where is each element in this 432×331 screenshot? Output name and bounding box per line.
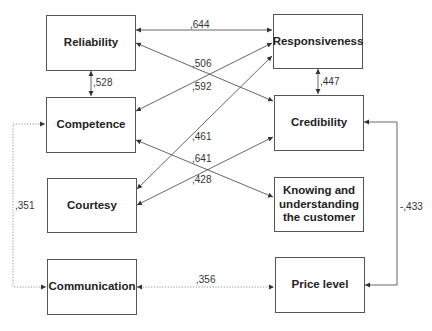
node-label: Communication xyxy=(49,280,136,294)
edge-label-528: ,528 xyxy=(93,77,112,88)
node-communication: Communication xyxy=(47,259,137,315)
edge-label-461: ,461 xyxy=(192,131,211,142)
edge-reliability-credibility xyxy=(136,43,273,101)
node-responsiveness: Responsiveness xyxy=(273,14,363,69)
edge-label-506: ,506 xyxy=(192,58,211,69)
node-label: Competence xyxy=(56,118,125,132)
edge-label-447: ,447 xyxy=(320,76,339,87)
node-label: Price level xyxy=(292,278,349,292)
edge-label-592: ,592 xyxy=(192,81,211,92)
node-label: Credibility xyxy=(291,116,347,130)
path-diagram: Reliability Responsiveness Competence Cr… xyxy=(0,0,432,331)
node-credibility: Credibility xyxy=(274,95,364,151)
node-reliability: Reliability xyxy=(46,15,136,71)
node-label: Responsiveness xyxy=(273,35,364,49)
edge-competence-responsiveness xyxy=(136,43,272,111)
edge-label-428: ,428 xyxy=(192,174,211,185)
node-label: Reliability xyxy=(64,36,118,50)
edge-label-644: ,644 xyxy=(190,19,209,30)
edge-courtesy-responsiveness xyxy=(137,56,272,189)
edge-label-356: ,356 xyxy=(196,274,215,285)
edge-label-351: ,351 xyxy=(15,200,34,211)
edge-competence-knowing xyxy=(136,140,273,197)
edge-credibility-price-level xyxy=(364,122,397,285)
node-label: Knowing and understanding the customer xyxy=(279,184,359,225)
node-price-level: Price level xyxy=(275,257,365,313)
edge-label-641: ,641 xyxy=(192,153,211,164)
node-label: Courtesy xyxy=(67,199,117,213)
node-courtesy: Courtesy xyxy=(47,178,137,233)
edge-courtesy-credibility xyxy=(137,137,273,205)
node-competence: Competence xyxy=(46,97,136,153)
node-knowing-customer: Knowing and understanding the customer xyxy=(274,177,364,232)
edge-label-neg433: -,433 xyxy=(400,201,423,212)
